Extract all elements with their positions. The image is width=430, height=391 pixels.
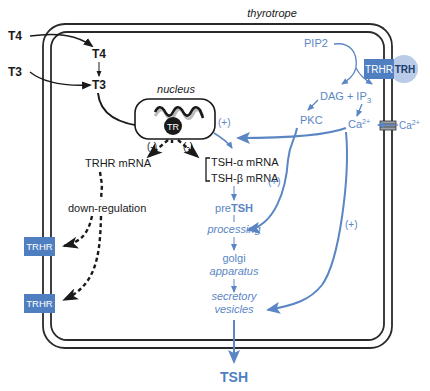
- nucleus-label: nucleus: [157, 83, 195, 95]
- trh-label: TRH: [395, 64, 416, 75]
- tr-label: TR: [167, 122, 179, 132]
- pip2-curve: [334, 44, 356, 68]
- ca-to-vesicles-arrow: [268, 132, 347, 310]
- t3-inside-label: T3: [92, 78, 106, 92]
- down-reg-arrow-lower: [64, 216, 101, 300]
- membrane-trhr-lower-label: TRHR: [26, 298, 53, 309]
- ca-plus-sign: (+): [345, 219, 358, 230]
- t4-inside-label: T4: [92, 47, 106, 61]
- t3-entry-arrow: [30, 72, 90, 85]
- pip2-to-dag-arrow: [342, 68, 356, 84]
- down-regulation-label: down-regulation: [68, 202, 146, 214]
- t4-entry-arrow: [30, 34, 92, 46]
- pkc-plus-sign: (+): [268, 176, 281, 187]
- dag-to-pkc-arrow: [308, 100, 318, 110]
- ca-to-transcription-arrow: [238, 128, 346, 138]
- golgi-label-2: apparatus: [210, 265, 259, 277]
- trhr-mrna-label: TRHR mRNA: [85, 157, 152, 169]
- pip2-label: PIP2: [304, 37, 328, 49]
- golgi-label-1: golgi: [222, 252, 245, 264]
- cell-label: thyrotrope: [247, 7, 297, 19]
- pkc-label: PKC: [300, 114, 323, 126]
- thyrotrope-diagram: thyrotrope T4 T3 T4 T3 nucleus TR (-) (-…: [0, 0, 430, 391]
- ca-inside-label: Ca2+: [348, 118, 370, 130]
- secretory-label-2: vesicles: [214, 303, 254, 315]
- tsh-output-label: TSH: [220, 369, 248, 385]
- dag-ip-label: DAG + IP3: [320, 90, 372, 105]
- trhr-surface-label: TRHR: [365, 64, 393, 75]
- processing-label: processing: [206, 223, 261, 235]
- membrane-trhr-upper-label: TRHR: [26, 241, 53, 252]
- ca-outside-label: Ca2+: [399, 119, 420, 131]
- t3-outside-label: T3: [8, 65, 22, 79]
- nucleus-plus-arrow: [214, 133, 232, 148]
- mrna-bracket: [206, 158, 210, 181]
- nucleus-plus-sign: (+): [218, 117, 231, 128]
- secretory-label-1: secretory: [211, 290, 258, 302]
- ip3-to-ca-arrow: [357, 104, 362, 116]
- pretsh-label: preTSH: [215, 202, 253, 214]
- t4-outside-label: T4: [8, 29, 22, 43]
- down-reg-arrow-upper: [64, 216, 92, 246]
- trhr-mrna-dash: [100, 172, 102, 200]
- tsh-alpha-mrna-label: TSH-α mRNA: [211, 156, 279, 168]
